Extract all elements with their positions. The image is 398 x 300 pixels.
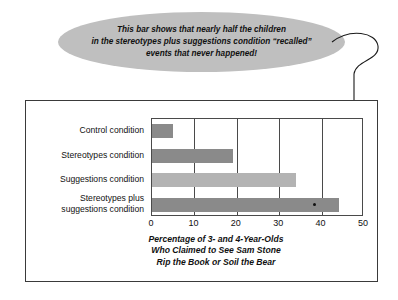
bar-row [152,144,233,169]
y-label-1: Stereotypes condition [32,150,144,160]
bar-1[interactable] [152,149,233,163]
callout-anchor-dot [313,203,316,206]
x-tick-50: 50 [358,218,368,228]
bar-row [152,119,173,144]
x-tick-40: 40 [316,218,326,228]
x-tick-0: 0 [148,218,153,228]
y-label-2: Suggestions condition [32,174,144,184]
caption-line-3: Rip the Book or Soil the Bear [66,257,366,268]
caption-line-2: Who Claimed to See Sam Stone [66,245,366,256]
callout-line-3: events that never happened! [74,48,329,60]
x-tick-30: 30 [273,218,283,228]
y-axis-category-labels: Control conditionStereotypes conditionSu… [32,118,148,216]
bar-2[interactable] [152,173,296,187]
chart-frame: Control conditionStereotypes conditionSu… [25,100,378,282]
callout-line-2: in the stereotypes plus suggestions cond… [74,36,329,48]
callout-bubble: This bar shows that nearly half the chil… [58,12,345,72]
y-label-line: suggestions condition [32,204,144,214]
y-label-line: Stereotypes plus [32,193,144,203]
callout-line-1: This bar shows that nearly half the chil… [74,24,329,36]
y-label-line: Control condition [32,125,144,135]
x-tick-10: 10 [188,218,198,228]
y-label-3: Stereotypes plussuggestions condition [32,193,144,214]
plot-area [151,118,363,216]
y-label-0: Control condition [32,125,144,135]
bar-row [152,168,296,193]
bar-row [152,193,339,218]
y-label-line: Stereotypes condition [32,150,144,160]
caption-line-1: Percentage of 3- and 4-Year-Olds [66,234,366,245]
callout-text: This bar shows that nearly half the chil… [74,24,329,61]
bar-3[interactable] [152,198,339,212]
chart-caption: Percentage of 3- and 4-Year-Olds Who Cla… [66,234,366,268]
bar-0[interactable] [152,124,173,138]
x-tick-20: 20 [231,218,241,228]
callout-pointer-line [330,30,398,108]
x-axis-tick-labels: 01020304050 [151,218,363,232]
y-label-line: Suggestions condition [32,174,144,184]
